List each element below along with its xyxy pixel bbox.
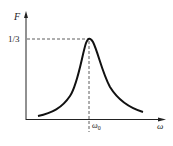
y-axis-arrow-icon: [24, 11, 28, 18]
resonance-chart: F 1/3 ω0 ω: [0, 0, 173, 146]
y-tick-label: 1/3: [8, 34, 20, 44]
resonance-curve: [38, 39, 143, 116]
x-axis-label: ω: [157, 121, 163, 131]
x-tick-label: ω0: [92, 121, 101, 131]
y-axis-label: F: [13, 11, 21, 22]
x-tick-subscript: 0: [98, 125, 101, 131]
